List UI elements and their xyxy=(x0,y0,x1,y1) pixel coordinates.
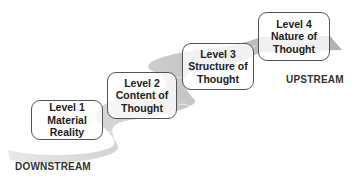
level-3-line-3: Thought xyxy=(197,73,239,86)
level-2-line-3: Thought xyxy=(121,102,163,115)
downstream-label: DOWNSTREAM xyxy=(15,161,91,172)
level-1-line-2: Material xyxy=(47,114,87,127)
level-2-box: Level 2 Content of Thought xyxy=(107,72,177,119)
level-4-line-3: Thought xyxy=(273,43,315,56)
level-4-line-2: Nature of xyxy=(271,30,317,43)
level-1-title: Level 1 xyxy=(49,101,85,114)
level-4-box: Level 4 Nature of Thought xyxy=(258,12,330,61)
level-3-box: Level 3 Structure of Thought xyxy=(182,43,254,90)
level-4-title: Level 4 xyxy=(276,18,312,31)
level-3-title: Level 3 xyxy=(200,48,236,61)
level-2-line-2: Content of xyxy=(116,89,169,102)
level-2-title: Level 2 xyxy=(124,77,160,90)
level-1-box: Level 1 Material Reality xyxy=(31,100,103,140)
upstream-label: UPSTREAM xyxy=(286,74,344,85)
level-3-line-2: Structure of xyxy=(188,60,248,73)
level-1-line-3: Reality xyxy=(50,126,84,139)
